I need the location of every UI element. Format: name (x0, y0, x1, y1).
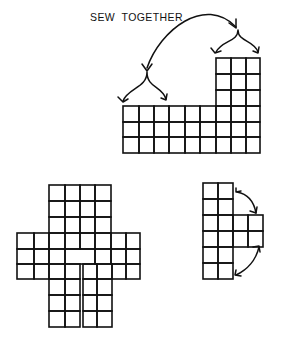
grid-cell (154, 106, 169, 122)
grid-cell (216, 90, 231, 106)
grid-cell (233, 215, 248, 231)
grid-cell (216, 58, 231, 74)
grid-cell (231, 106, 246, 122)
upper-curved-double-arrow-icon (237, 192, 256, 213)
grid-cell (95, 233, 111, 249)
grid-cell (231, 137, 246, 153)
pattern-pieces-drawing (0, 0, 283, 345)
grid-cell (200, 106, 216, 122)
grid-cell (246, 58, 260, 74)
grid-cell (203, 263, 218, 279)
grid-cell (203, 247, 218, 263)
grid-cell (233, 231, 248, 247)
grid-cell (154, 122, 169, 137)
grid-cell (154, 137, 169, 153)
grid-cell (123, 122, 139, 137)
grid-cell (83, 279, 97, 295)
grid-cell (216, 137, 231, 153)
grid-cell (65, 311, 80, 327)
grid-cell (139, 122, 154, 137)
grid-cell (203, 231, 218, 247)
grid-cell (169, 106, 185, 122)
grid-cell (49, 295, 65, 311)
grid-cell (83, 264, 97, 279)
grid-cell (248, 231, 263, 247)
grid-cell (200, 122, 216, 137)
grid-cell (203, 199, 218, 215)
grid-cell (126, 264, 140, 279)
grid-cell (231, 58, 246, 74)
right-fork-arrow-icon (216, 30, 258, 52)
grid-cell (246, 137, 260, 153)
grid-cell (95, 201, 111, 217)
grid-cell (17, 233, 34, 249)
grid-cell (216, 106, 231, 122)
grid-cell (248, 215, 263, 231)
grid-cell (17, 249, 34, 264)
left-fork-arrow-icon (123, 72, 166, 101)
grid-cell (139, 106, 154, 122)
grid-cell (246, 74, 260, 90)
grid-cell (218, 231, 233, 247)
grid-cell (123, 106, 139, 122)
grid-cell (126, 249, 140, 264)
grid-cell (185, 106, 200, 122)
grid-cell (17, 264, 34, 279)
grid-cell (246, 106, 260, 122)
grid-cell (97, 311, 112, 327)
grid-cell (246, 90, 260, 106)
cross-piece (17, 185, 140, 327)
grid-cell (216, 122, 231, 137)
grid-cell (80, 233, 95, 249)
grid-cell (203, 215, 218, 231)
grid-cell (203, 183, 218, 199)
grid-cell (65, 233, 80, 249)
grid-cell (169, 137, 185, 153)
top-piece (123, 58, 260, 153)
grid-cell (111, 249, 126, 264)
grid-cell (65, 185, 80, 201)
lower-curved-double-arrow-icon (236, 247, 259, 275)
grid-cell (49, 279, 65, 295)
grid-cell (80, 217, 95, 233)
grid-cell (34, 249, 49, 264)
grid-cell (218, 263, 233, 279)
grid-cell (83, 295, 97, 311)
sewing-diagram: SEW TOGETHER (0, 0, 283, 345)
grid-cell (49, 185, 65, 201)
grid-cell (95, 217, 111, 233)
grid-cell (231, 90, 246, 106)
grid-cell (97, 295, 112, 311)
grid-cell (65, 264, 80, 279)
grid-cell (112, 264, 126, 279)
grid-cell (218, 199, 233, 215)
arrowhead-icon (253, 246, 260, 252)
grid-cell (80, 185, 95, 201)
grid-cell (49, 264, 65, 279)
grid-cell (49, 311, 65, 327)
arrowhead-icon (250, 207, 257, 213)
grid-cell (65, 279, 80, 295)
grid-cell (83, 311, 97, 327)
grid-cell (95, 249, 111, 264)
grid-cell (200, 137, 216, 153)
grid-cell (80, 201, 95, 217)
grid-cell (34, 264, 49, 279)
grid-cell (185, 137, 200, 153)
grid-cell (34, 233, 49, 249)
pattern-pieces (17, 58, 263, 327)
grid-cell (49, 249, 65, 264)
grid-cell (218, 215, 233, 231)
grid-cell (185, 122, 200, 137)
grid-cell (49, 217, 65, 233)
arrowhead-icon (236, 188, 241, 192)
grid-cell (111, 233, 126, 249)
grid-cell (65, 217, 80, 233)
grid-cell (95, 185, 111, 201)
grid-cell (231, 74, 246, 90)
grid-cell (123, 137, 139, 153)
grid-cell (218, 247, 233, 263)
grid-cell (169, 122, 185, 137)
grid-cell (97, 264, 112, 279)
grid-cell (246, 122, 260, 137)
